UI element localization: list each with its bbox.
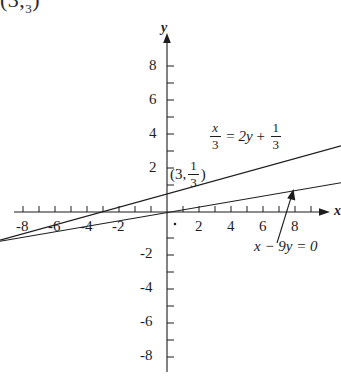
point-label-fraction: 13 (188, 159, 199, 190)
point-label-open: (3, (170, 166, 186, 182)
equation-2-label: x − 9y = 0 (254, 238, 318, 255)
y-tick-label--6: -6 (140, 313, 153, 330)
axis-dot-mark (174, 223, 177, 226)
x-axis-label: x (334, 203, 341, 219)
x-tick-label-4: 4 (227, 218, 235, 235)
y-tick-label--8: -8 (140, 347, 153, 364)
y-tick-label-2: 2 (149, 159, 157, 176)
equation-1-rhs-denominator: 3 (271, 138, 282, 152)
equation-1-numerator: x (210, 121, 221, 135)
y-tick-label-8: 8 (149, 57, 157, 74)
equation-1-plus: + (256, 128, 264, 144)
callout-pointer-line (277, 196, 292, 243)
y-axis-label: y (161, 20, 167, 36)
equation-1-equals: = (226, 128, 234, 144)
y-tick-label-4: 4 (149, 125, 157, 142)
y-tick-label--2: -2 (140, 245, 153, 262)
equation-1-left-fraction: x 3 (210, 121, 221, 152)
x-axis-arrowhead (319, 208, 330, 215)
equation-1-rhs-numerator: 1 (271, 121, 282, 135)
point-label-denominator: 3 (188, 176, 199, 190)
x-tick-label--6: -6 (48, 218, 61, 235)
equation-1-denominator: 3 (210, 138, 221, 152)
equation-1-label: x 3 = 2y + 1 3 (208, 122, 283, 153)
y-tick-label-6: 6 (149, 91, 157, 108)
x-tick-label--8: -8 (16, 218, 29, 235)
graph-figure: (3,13) (0, 0, 341, 376)
x-tick-label--2: -2 (112, 218, 125, 235)
x-tick-label--4: -4 (80, 218, 93, 235)
point-label: (3,13) (170, 160, 206, 191)
equation-1-right-fraction: 1 3 (271, 121, 282, 152)
point-label-numerator: 1 (188, 159, 199, 173)
x-tick-label-8: 8 (291, 218, 299, 235)
x-tick-label-6: 6 (259, 218, 267, 235)
x-tick-label-2: 2 (195, 218, 203, 235)
equation-1-rhs-term: 2y (238, 128, 252, 144)
point-label-close: ) (201, 166, 206, 182)
y-tick-label--4: -4 (140, 279, 153, 296)
